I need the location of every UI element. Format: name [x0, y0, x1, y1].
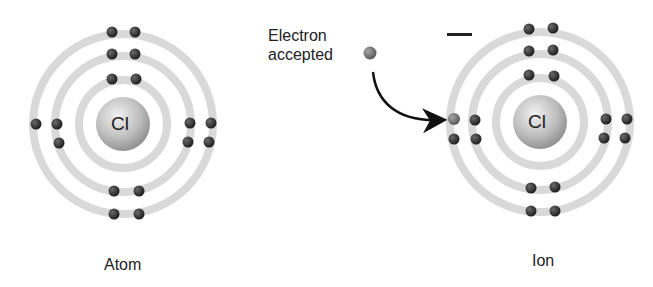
electron [107, 74, 118, 85]
electron [31, 119, 42, 130]
electron [52, 119, 63, 130]
electron [183, 137, 194, 148]
incoming-electron [364, 47, 377, 60]
electron [107, 27, 118, 38]
electron [599, 133, 610, 144]
electron-accepted-line2: accepted [268, 45, 333, 64]
electron [601, 114, 612, 125]
electron [109, 186, 120, 197]
electron [622, 114, 633, 125]
electron [134, 186, 145, 197]
electron [134, 209, 145, 220]
electron [550, 206, 561, 217]
atom-caption: Atom [104, 256, 141, 274]
electron [206, 118, 217, 129]
electron [548, 45, 559, 56]
electron [130, 49, 141, 60]
electron [107, 49, 118, 60]
electron [526, 183, 537, 194]
electron [524, 46, 535, 57]
electron [131, 74, 142, 85]
transfer-arrow [373, 72, 440, 120]
electron-accepted-label: Electron accepted [268, 26, 333, 64]
electron [470, 115, 481, 126]
electron [185, 118, 196, 129]
electron [204, 137, 215, 148]
negative-charge-sign [447, 33, 472, 36]
electron [54, 138, 65, 149]
electron [524, 24, 535, 35]
electron [109, 209, 120, 220]
electron [449, 134, 460, 145]
electron-transfer [364, 47, 441, 121]
electron [471, 134, 482, 145]
atom-nucleus-symbol: Cl [111, 113, 129, 135]
electron [620, 133, 631, 144]
electron [524, 70, 535, 81]
ion-nucleus-symbol: Cl [528, 111, 546, 133]
electron [549, 71, 560, 82]
electron [548, 23, 559, 34]
electron [550, 182, 561, 193]
ion-caption: Ion [532, 252, 554, 270]
electron-accepted-line1: Electron [268, 26, 333, 45]
electron [526, 206, 537, 217]
accepted-electron [448, 113, 460, 125]
electron [130, 27, 141, 38]
